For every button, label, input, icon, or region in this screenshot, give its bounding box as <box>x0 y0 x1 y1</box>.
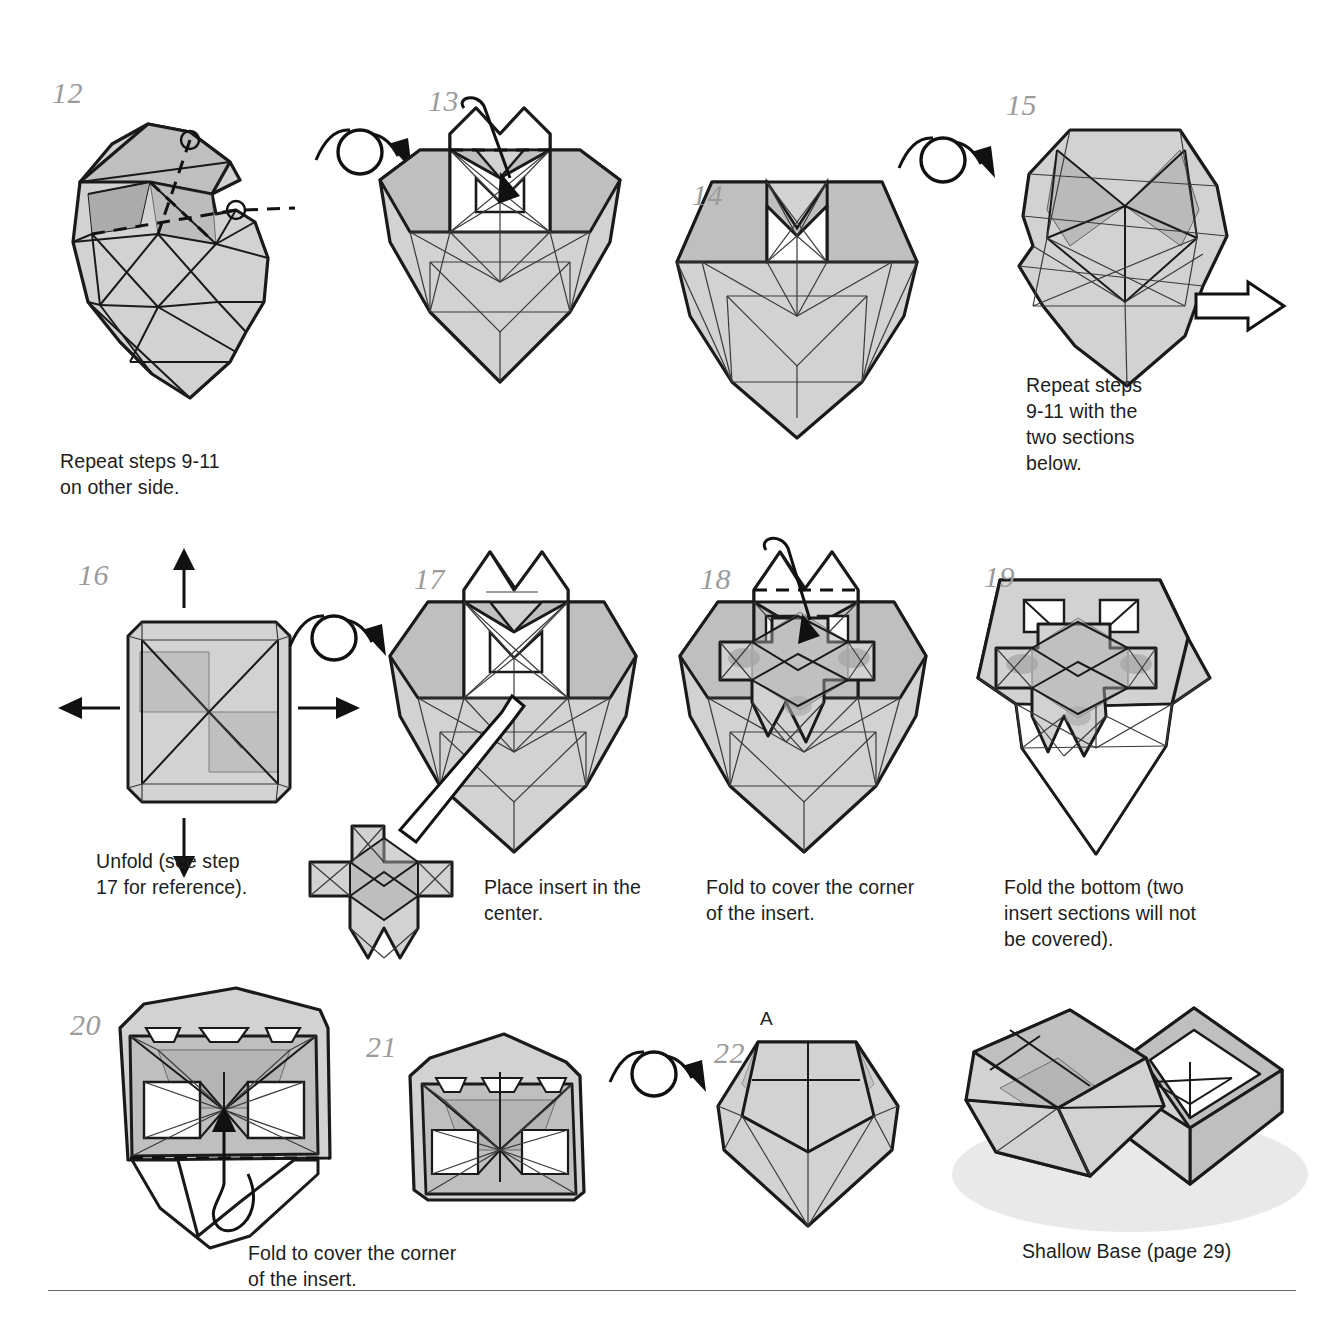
step-13-diagram <box>372 92 632 422</box>
page-footer-rule <box>48 1290 1296 1292</box>
result-caption: Shallow Base (page 29) <box>1022 1238 1231 1264</box>
step-21-diagram <box>400 1022 620 1222</box>
left-arrow-icon <box>56 688 122 728</box>
step-21-number: 21 <box>366 1030 397 1064</box>
step-20-caption: Fold to cover the corner of the insert. <box>248 1240 456 1292</box>
step-18-number: 18 <box>700 562 731 596</box>
step-19-number: 19 <box>984 560 1015 594</box>
step-20-number: 20 <box>70 1008 101 1042</box>
step-17-number: 17 <box>414 562 445 596</box>
step-16-number: 16 <box>78 558 109 592</box>
step-12-diagram <box>40 62 340 422</box>
up-arrow-icon <box>164 548 204 610</box>
step-22-number: 22 <box>714 1036 745 1070</box>
origami-instruction-page: 12 Repeat steps 9-11 on other side. <box>0 0 1336 1343</box>
step-12-caption: Repeat steps 9-11 on other side. <box>60 448 220 500</box>
right-arrow-icon <box>296 688 362 728</box>
step-19-diagram <box>960 556 1230 886</box>
step-15-diagram <box>985 106 1235 406</box>
step-18-caption: Fold to cover the corner of the insert. <box>706 874 914 926</box>
step-15-number: 15 <box>1006 88 1037 122</box>
step-16-caption: Unfold (see step 17 for reference). <box>96 848 247 900</box>
result-diagram <box>940 996 1320 1236</box>
insert-piece-diagram <box>288 812 488 972</box>
step-19-caption: Fold the bottom (two insert sections wil… <box>1004 874 1196 952</box>
step-17-caption: Place insert in the center. <box>484 874 641 926</box>
step-15-caption: Repeat steps 9-11 with the two sections … <box>1026 372 1142 476</box>
step-14-number: 14 <box>692 178 723 212</box>
step-13-number: 13 <box>428 84 459 118</box>
hollow-right-arrow-icon <box>1192 276 1292 336</box>
step-12-number: 12 <box>52 76 83 110</box>
step-22-point-label: A <box>760 1008 773 1030</box>
step-20-diagram <box>100 988 360 1248</box>
step-16-diagram <box>110 612 310 812</box>
